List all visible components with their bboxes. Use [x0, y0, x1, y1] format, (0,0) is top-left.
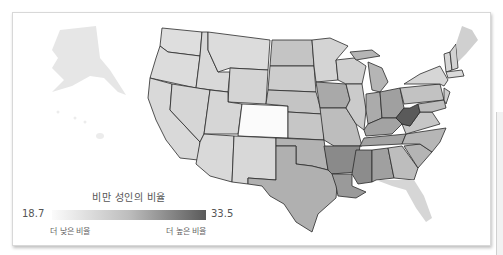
- state-new-jersey: [444, 88, 450, 104]
- state-south-dakota: [268, 66, 316, 92]
- state-hawaii: [57, 111, 105, 140]
- state-new-mexico: [232, 136, 276, 184]
- state-north-dakota: [270, 40, 314, 66]
- state-florida: [376, 180, 432, 222]
- state-arizona: [196, 134, 234, 182]
- legend-gradient-bar: [52, 210, 206, 220]
- state-new-york: [404, 66, 448, 86]
- state-iowa: [316, 82, 350, 108]
- state-montana: [208, 32, 270, 72]
- state-alaska: [52, 26, 126, 95]
- state-mississippi: [352, 150, 372, 184]
- state-maine: [456, 26, 478, 62]
- state-kansas: [288, 112, 324, 140]
- state-wyoming: [228, 68, 268, 104]
- state-wisconsin: [336, 58, 366, 84]
- state-colorado: [238, 104, 288, 138]
